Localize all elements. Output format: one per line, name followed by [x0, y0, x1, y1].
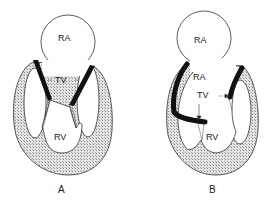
caption-a: A [58, 185, 65, 195]
panel-b [167, 11, 259, 175]
label-rv-b: RV [206, 133, 218, 142]
label-ra-a: RA [58, 34, 71, 43]
label-tv-b: TV [197, 91, 209, 100]
caption-b: B [209, 185, 216, 195]
label-rv-a: RV [54, 133, 66, 142]
diagram: RA TV RV A RA RA TV RV B [0, 0, 272, 206]
heart-diagram-svg [0, 0, 272, 206]
label-ra-upper-b: RA [194, 36, 207, 45]
label-tv-a: TV [55, 76, 67, 85]
label-ra-lower-b: RA [193, 73, 206, 82]
